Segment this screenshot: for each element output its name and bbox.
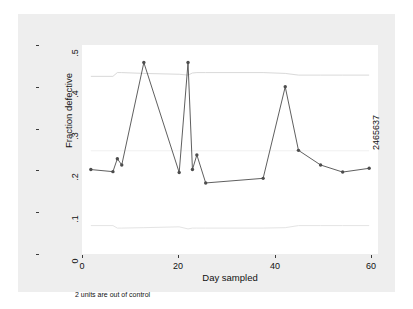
x-tick-label-3: 60: [359, 261, 383, 271]
x-tick-label-2: 40: [263, 261, 287, 271]
data-point-marker: [120, 163, 123, 166]
x-tick-mark-1: [178, 255, 179, 258]
series-markers: [89, 61, 371, 185]
x-tick-label-0: 0: [70, 261, 94, 271]
data-point-marker: [319, 163, 322, 166]
data-polyline: [91, 63, 369, 183]
y-axis: Fraction defective 0 .1 .2 .3 .4 .5: [36, 45, 82, 254]
data-point-marker: [195, 153, 198, 156]
limit-line: [91, 226, 369, 229]
series-line: [91, 63, 369, 183]
data-point-marker: [89, 168, 92, 171]
plot-region: [82, 45, 378, 254]
data-point-marker: [116, 157, 119, 160]
y-tick-mark-1: [36, 212, 39, 213]
data-point-marker: [142, 61, 145, 64]
y-tick-label-1: .1: [70, 211, 80, 227]
data-point-marker: [284, 85, 287, 88]
x-tick-mark-0: [82, 255, 83, 258]
x-tick-label-1: 20: [166, 261, 190, 271]
data-point-marker: [261, 177, 264, 180]
x-tick-mark-2: [275, 255, 276, 258]
data-point-marker: [367, 167, 370, 170]
y-tick-mark-5: [36, 45, 39, 46]
out-of-control-note: 2 units are out of control: [75, 291, 150, 298]
x-tick-mark-3: [371, 255, 372, 258]
data-point-marker: [297, 149, 300, 152]
control-limit-lines: [91, 73, 369, 229]
x-axis-title: Day sampled: [82, 272, 378, 283]
y-tick-label-2: .2: [70, 169, 80, 185]
data-point-marker: [111, 170, 114, 173]
data-point-marker: [191, 168, 194, 171]
data-point-marker: [177, 171, 180, 174]
y-tick-label-4: .4: [70, 86, 80, 102]
y-tick-mark-3: [36, 129, 39, 130]
data-point-marker: [341, 170, 344, 173]
side-reference-label: 2465637: [371, 115, 381, 150]
y-tick-label-5: .5: [70, 45, 80, 61]
y-tick-mark-2: [36, 170, 39, 171]
data-point-marker: [186, 61, 189, 64]
y-tick-label-3: .3: [70, 128, 80, 144]
limit-line: [91, 73, 369, 77]
data-point-marker: [204, 181, 207, 184]
graph-region: Fraction defective 0 .1 .2 .3 .4 .5: [18, 14, 395, 292]
y-tick-mark-0: [36, 254, 39, 255]
chart-screenshot: Fraction defective 0 .1 .2 .3 .4 .5: [0, 0, 413, 309]
control-chart-svg: [82, 45, 378, 254]
y-tick-mark-4: [36, 87, 39, 88]
